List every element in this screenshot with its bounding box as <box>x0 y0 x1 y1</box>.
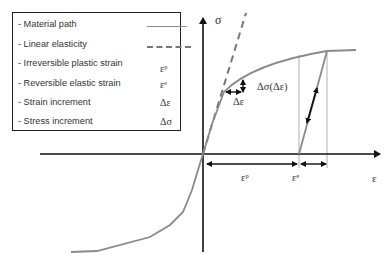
plastic-strain-symbol: εᵖ <box>160 63 167 74</box>
plastic-strain-label: εᵖ <box>241 172 249 183</box>
stress-increment-function-label: Δσ(Δε) <box>257 81 288 92</box>
legend-box: - Material path - Linear elasticity - Ir… <box>12 12 181 131</box>
epsilon-axis-label: ε <box>372 172 377 184</box>
legend-item-plastic-strain: - Irreversible plastic strain <box>18 58 123 68</box>
sigma-axis-label: σ <box>215 13 221 28</box>
stress-increment-symbol: Δσ <box>160 116 172 127</box>
legend-item-elastic-strain: - Reversible elastic strain <box>18 78 121 88</box>
elastic-strain-symbol: εᵉ <box>160 79 167 90</box>
elastic-strain-label: εᵉ <box>292 172 299 183</box>
solid-line-swatch <box>147 26 187 27</box>
legend-item-strain-increment: - Strain increment <box>18 97 91 107</box>
strain-increment-symbol: Δε <box>160 97 171 108</box>
unloading-arrow <box>307 88 317 123</box>
stress-strain-diagram: - Material path - Linear elasticity - Ir… <box>0 0 389 262</box>
dashed-line-swatch <box>147 46 191 48</box>
legend-item-linear-elasticity: - Linear elasticity <box>18 39 87 49</box>
legend-item-stress-increment: - Stress increment <box>18 116 93 126</box>
legend-item-material-path: - Material path <box>18 19 77 29</box>
strain-increment-label: Δε <box>233 96 244 107</box>
